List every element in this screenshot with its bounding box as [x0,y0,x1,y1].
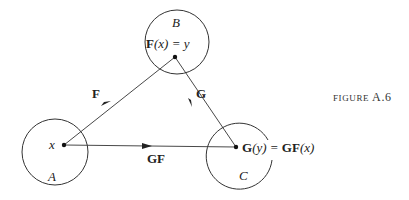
arrow-f-label: F [92,86,100,101]
element-x-label: x [48,137,55,152]
arrow-gf-head [142,143,152,149]
arrow-g-label: G [196,86,206,101]
composition-diagram: A B C x F(x) = y G(y) = GF(x) F G GF FIG… [0,0,409,200]
element-gy-label: G(y) = GF(x) [242,140,314,155]
set-b-label: B [172,15,180,30]
point-gfx [234,145,238,149]
set-a-label: A [47,169,56,184]
arrow-f-line [64,57,175,145]
arrow-g-head [188,98,192,107]
point-y [173,55,177,59]
set-c-label: C [239,168,248,183]
arrow-g-line [175,57,236,147]
arrow-gf-label: GF [147,151,165,166]
element-fx-label: F(x) = y [146,36,190,51]
figure-caption: FIGUREA.6 [333,90,392,104]
point-x [62,143,66,147]
arrow-f-head [101,101,111,106]
